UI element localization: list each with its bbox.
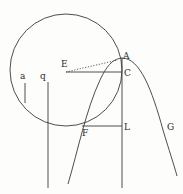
geometry-figure: a q E A C F L G	[0, 0, 183, 194]
label-a-point: A	[122, 51, 130, 61]
label-l: L	[124, 122, 130, 132]
dotted-line-ea	[66, 60, 118, 72]
label-c: C	[124, 68, 131, 78]
label-f: F	[82, 128, 88, 138]
label-e: E	[61, 59, 68, 69]
label-a: a	[20, 71, 26, 81]
label-q: q	[40, 71, 46, 81]
curve-fag	[68, 58, 177, 184]
label-g: G	[167, 122, 174, 132]
diagram-canvas: a q E A C F L G	[0, 0, 183, 194]
